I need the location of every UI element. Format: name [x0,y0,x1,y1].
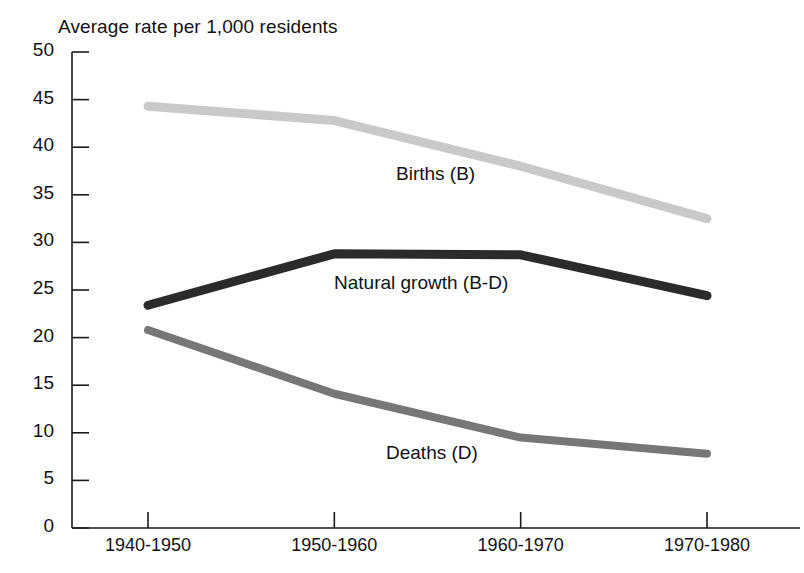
x-tick-label: 1940-1950 [105,535,191,556]
y-tick-label: 0 [8,515,54,537]
y-tick-label: 30 [8,229,54,251]
y-tick-label: 25 [8,277,54,299]
series-label-deaths: Deaths (D) [386,442,478,464]
x-tick-label: 1950-1960 [291,535,377,556]
y-tick-label: 45 [8,87,54,109]
series-line-deaths-d [148,330,707,454]
x-tick-marks [148,512,707,528]
y-tick-label: 5 [8,467,54,489]
y-tick-label: 50 [8,39,54,61]
chart-container: Average rate per 1,000 residents 0510152… [0,0,804,573]
x-tick-label: 1970-1980 [664,535,750,556]
y-tick-label: 10 [8,420,54,442]
series-label-births: Births (B) [396,163,475,185]
y-tick-label: 35 [8,182,54,204]
y-tick-marks [72,52,89,528]
y-tick-label: 15 [8,372,54,394]
series-label-natural-growth: Natural growth (B-D) [334,272,508,294]
y-tick-label: 20 [8,325,54,347]
x-tick-label: 1960-1970 [478,535,564,556]
y-tick-label: 40 [8,134,54,156]
